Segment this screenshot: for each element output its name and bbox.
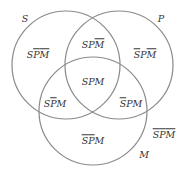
region-p-only: SPM (134, 50, 157, 60)
region-s-only: SPM (27, 50, 50, 60)
set-label-s: S (22, 14, 29, 24)
region-none: SPM (153, 130, 176, 140)
venn-diagram (0, 0, 185, 177)
set-label-m: M (139, 150, 149, 160)
region-pm-not-s: SPM (120, 99, 143, 109)
set-label-p: P (158, 14, 164, 24)
region-spm: SPM (82, 77, 105, 87)
region-sm-not-p: SPM (44, 99, 67, 109)
region-sp-not-m: SPM (82, 40, 105, 50)
circle-m (39, 57, 147, 165)
region-m-only: SPM (82, 136, 105, 146)
